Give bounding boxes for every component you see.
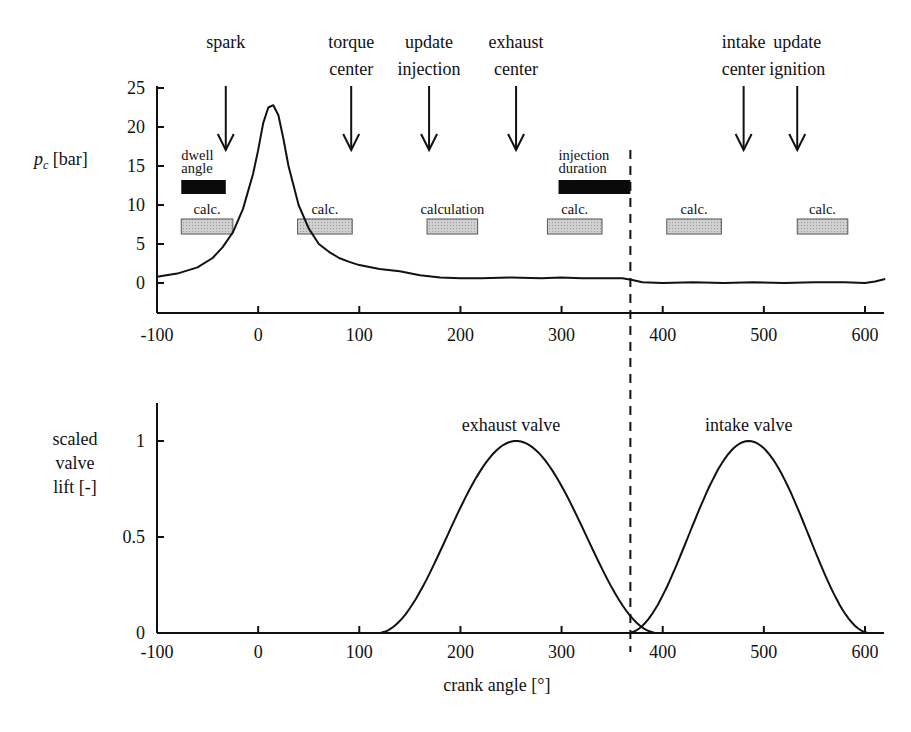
y-tick-label: 0 [136, 273, 145, 293]
calc-bar: calc. [547, 201, 602, 234]
black-bar [181, 180, 226, 194]
x-tick-label: -100 [141, 642, 174, 662]
event-label: intake [722, 32, 766, 52]
calc-bar: calc. [181, 201, 233, 234]
duration-bar: injectionduration [559, 147, 631, 194]
gray-bar [797, 219, 848, 234]
bar-label: calc. [681, 201, 708, 217]
pressure-panel: 0510152025-1000100200300400500600pc [bar… [32, 32, 885, 345]
event-marker: torquecenter [328, 32, 374, 150]
y-tick-label: 0.5 [123, 527, 146, 547]
valve-lift-panel: 00.51-1000100200300400500600scaledvalvel… [53, 403, 884, 695]
intake-valve-label: intake valve [705, 415, 792, 435]
event-marker: intakecenter [722, 32, 766, 150]
x-tick-label: 100 [346, 325, 373, 345]
calc-bar: calc. [298, 201, 353, 234]
y-tick-label: 20 [127, 117, 145, 137]
y-tick-label: 25 [127, 78, 145, 98]
gray-bar [181, 219, 233, 234]
bar-label: calc. [561, 201, 588, 217]
bar-label: angle [181, 160, 212, 176]
x-tick-label: 0 [254, 325, 263, 345]
lift-y-axis-label: lift [-] [53, 477, 96, 497]
calc-bar: calc. [667, 201, 722, 234]
calc-bar: calc. [797, 201, 848, 234]
x-tick-label: 100 [346, 642, 373, 662]
bar-label: calc. [809, 201, 836, 217]
bar-label: duration [559, 160, 608, 176]
event-marker: updateinjection [398, 32, 461, 150]
event-label: torque [328, 32, 374, 52]
pressure-y-axis-label: pc [bar] [32, 149, 88, 172]
gray-bar [667, 219, 722, 234]
event-marker: updateignition [769, 32, 825, 150]
event-marker: exhaustcenter [489, 32, 544, 150]
bar-label: calc. [194, 201, 221, 217]
x-tick-label: 300 [548, 642, 575, 662]
exhaust-valve-label: exhaust valve [462, 415, 560, 435]
event-marker: spark [206, 32, 245, 150]
event-label: update [405, 32, 453, 52]
x-tick-label: 600 [852, 325, 879, 345]
x-tick-label: 600 [852, 642, 879, 662]
event-label: ignition [769, 59, 825, 79]
calc-bar: calculation [421, 201, 485, 234]
exhaust-valve-curve [378, 441, 658, 633]
event-label: update [773, 32, 821, 52]
y-tick-label: 10 [127, 195, 145, 215]
x-tick-label: 400 [649, 642, 676, 662]
black-bar [559, 180, 631, 194]
event-label: spark [206, 32, 245, 52]
x-tick-label: 500 [750, 325, 777, 345]
chart-canvas: 0510152025-1000100200300400500600pc [bar… [0, 0, 911, 732]
event-label: injection [398, 59, 461, 79]
duration-bar: dwellangle [181, 147, 226, 194]
timing-diagram-figure: 0510152025-1000100200300400500600pc [bar… [0, 0, 911, 732]
event-label: center [494, 59, 538, 79]
pressure-curve [157, 105, 885, 283]
y-tick-label: 0 [136, 623, 145, 643]
event-label: center [329, 59, 373, 79]
y-tick-label: 15 [127, 156, 145, 176]
intake-valve-curve [627, 441, 870, 633]
event-label: exhaust [489, 32, 544, 52]
x-tick-label: -100 [141, 325, 174, 345]
x-axis-title: crank angle [°] [443, 675, 550, 695]
bar-label: calculation [421, 201, 485, 217]
bar-label: calc. [311, 201, 338, 217]
gray-bar [547, 219, 602, 234]
gray-bar [427, 219, 478, 234]
lift-y-axis-label: valve [56, 453, 95, 473]
x-tick-label: 200 [447, 642, 474, 662]
x-tick-label: 200 [447, 325, 474, 345]
y-tick-label: 5 [136, 234, 145, 254]
event-label: center [722, 59, 766, 79]
y-tick-label: 1 [136, 431, 145, 451]
lift-y-axis-label: scaled [53, 429, 98, 449]
x-tick-label: 400 [649, 325, 676, 345]
x-tick-label: 300 [548, 325, 575, 345]
x-tick-label: 0 [254, 642, 263, 662]
x-tick-label: 500 [750, 642, 777, 662]
